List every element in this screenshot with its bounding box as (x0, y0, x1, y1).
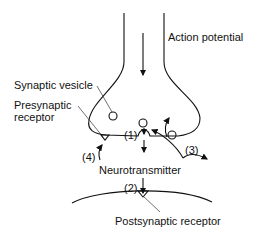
synaptic-vesicle-label: Synaptic vesicle (14, 79, 93, 91)
step2-label: (2) (124, 182, 137, 194)
step4-label: (4) (82, 151, 95, 163)
synaptic-vesicle (168, 131, 176, 139)
presynaptic-receptor (101, 135, 109, 140)
step4-arrow (99, 145, 102, 160)
presynaptic-leader-line (78, 106, 103, 137)
postsynaptic-receptor-label: Postsynaptic receptor (115, 215, 221, 227)
synaptic-vesicle (109, 112, 117, 120)
synapse-diagram: Action potential Synaptic vesicle Presyn… (0, 0, 257, 235)
step1-label: (1) (124, 129, 137, 141)
diagram-canvas: Action potential Synaptic vesicle Presyn… (0, 0, 257, 235)
action-potential-label: Action potential (168, 31, 243, 43)
postsynaptic-membrane (72, 191, 212, 203)
postsynaptic-leader-line (143, 196, 160, 212)
neurotransmitter-label: Neurotransmitter (99, 164, 181, 176)
presynaptic-receptor-label-2: receptor (14, 111, 55, 123)
presynaptic-receptor-label: Presynaptic (14, 99, 72, 111)
reuptake-arrow (152, 130, 183, 158)
vesicle-leader-line (97, 86, 112, 112)
synaptic-vesicle (139, 119, 147, 127)
step3-label: (3) (185, 144, 198, 156)
